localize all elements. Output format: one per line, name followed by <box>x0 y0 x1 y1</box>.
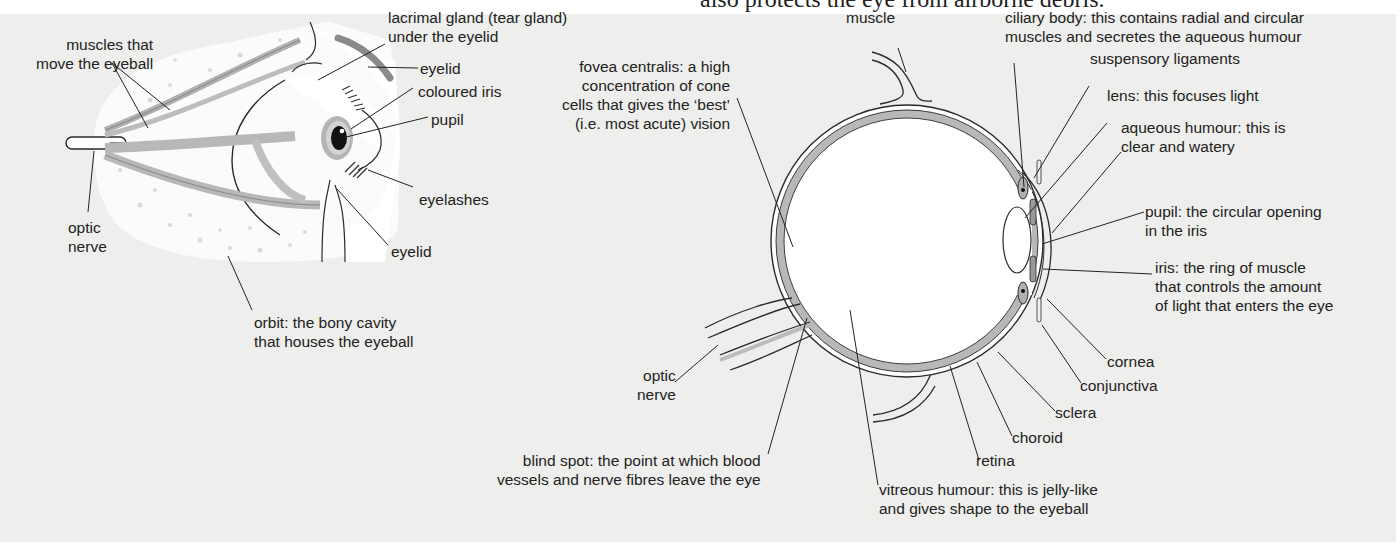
label-blind-spot: blind spot: the point at which blood ves… <box>497 451 761 489</box>
label-muscles-line2: move the eyeball <box>36 54 153 73</box>
label-iris-line3: of light that enters the eye <box>1155 296 1333 315</box>
label-lens: lens: this focuses light <box>1107 86 1259 105</box>
label-iris-right: iris: the ring of muscle that controls t… <box>1155 258 1333 315</box>
label-pupil-line2: in the iris <box>1145 221 1322 240</box>
label-sclera: sclera <box>1055 403 1096 422</box>
label-fovea-line2: concentration of cone <box>562 76 730 95</box>
label-pupil-left: pupil <box>431 110 464 129</box>
label-orbit-line1: orbit: the bony cavity <box>254 313 413 332</box>
label-orbit: orbit: the bony cavity that houses the e… <box>254 313 413 351</box>
label-fovea-line4: (i.e. most acute) vision <box>562 114 730 133</box>
label-optic-line1: optic <box>68 218 107 237</box>
label-aqueous-humour: aqueous humour: this is clear and watery <box>1121 118 1286 156</box>
label-coloured-iris: coloured iris <box>418 82 502 101</box>
label-blind-line1: blind spot: the point at which blood <box>497 451 761 470</box>
label-orbit-line2: that houses the eyeball <box>254 332 413 351</box>
label-retina: retina <box>976 451 1015 470</box>
label-cornea: cornea <box>1107 352 1154 371</box>
label-optic-nerve-right: optic nerve <box>637 366 676 404</box>
label-pupil-line1: pupil: the circular opening <box>1145 202 1322 221</box>
label-vitreous-line1: vitreous humour: this is jelly-like <box>879 480 1098 499</box>
label-ciliary-line1: ciliary body: this contains radial and c… <box>1005 8 1304 27</box>
label-optic-line2: nerve <box>68 237 107 256</box>
label-iris-line1: iris: the ring of muscle <box>1155 258 1333 277</box>
label-muscle: muscle <box>846 8 895 27</box>
label-vitreous-line2: and gives shape to the eyeball <box>879 499 1098 518</box>
label-iris-line2: that controls the amount <box>1155 277 1333 296</box>
eye-diagram-panel: muscles that move the eyeball optic nerv… <box>0 14 1396 542</box>
label-optic-r-line1: optic <box>637 366 676 385</box>
label-ciliary-line2: muscles and secretes the aqueous humour <box>1005 27 1304 46</box>
label-conjunctiva: conjunctiva <box>1080 376 1158 395</box>
label-suspensory-ligaments: suspensory ligaments <box>1090 49 1240 68</box>
label-lacrimal-line1: lacrimal gland (tear gland) <box>388 8 567 27</box>
label-fovea-line3: cells that gives the ‘best’ <box>562 95 730 114</box>
label-eyelashes: eyelashes <box>419 190 489 209</box>
label-fovea-centralis: fovea centralis: a high concentration of… <box>562 57 730 133</box>
label-optic-r-line2: nerve <box>637 385 676 404</box>
label-ciliary-body: ciliary body: this contains radial and c… <box>1005 8 1304 46</box>
label-choroid: choroid <box>1012 428 1063 447</box>
label-pupil-right: pupil: the circular opening in the iris <box>1145 202 1322 240</box>
label-eyelid-bottom: eyelid <box>391 242 432 261</box>
label-fovea-line1: fovea centralis: a high <box>562 57 730 76</box>
label-muscles: muscles that move the eyeball <box>36 35 153 73</box>
label-muscles-line1: muscles that <box>36 35 153 54</box>
label-aqueous-line2: clear and watery <box>1121 137 1286 156</box>
label-aqueous-line1: aqueous humour: this is <box>1121 118 1286 137</box>
label-eyelid-top: eyelid <box>420 59 461 78</box>
label-vitreous-humour: vitreous humour: this is jelly-like and … <box>879 480 1098 518</box>
label-optic-nerve-left: optic nerve <box>68 218 107 256</box>
label-lacrimal-line2: under the eyelid <box>388 27 567 46</box>
label-blind-line2: vessels and nerve fibres leave the eye <box>497 470 761 489</box>
label-lacrimal: lacrimal gland (tear gland) under the ey… <box>388 8 567 46</box>
